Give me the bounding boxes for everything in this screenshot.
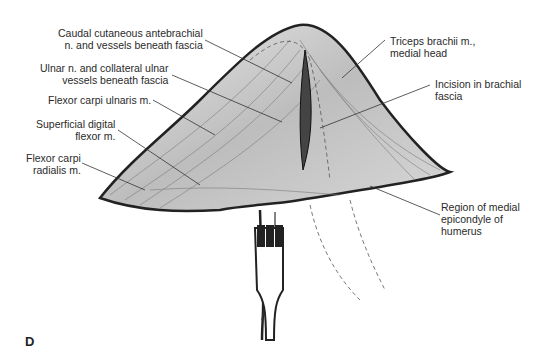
label-incision-brachial-fascia: Incision in brachial fascia: [435, 78, 521, 102]
label-triceps-brachii: Triceps brachii m., medial head: [390, 35, 475, 59]
retractor: [255, 226, 283, 340]
anatomical-illustration: Caudal cutaneous antebrachial n. and ves…: [0, 0, 544, 364]
label-ulnar-nerve: Ulnar n. and collateral ulnar vessels be…: [40, 62, 168, 86]
label-superficial-digital-flexor: Superficial digital flexor m.: [36, 118, 115, 142]
panel-letter: D: [25, 334, 34, 349]
label-medial-epicondyle: Region of medial epicondyle of humerus: [441, 201, 520, 237]
label-flexor-carpi-radialis: Flexor carpi radialis m.: [26, 152, 81, 176]
label-caudal-cutaneous-antebrachial-nerve: Caudal cutaneous antebrachial n. and ves…: [58, 27, 203, 51]
label-flexor-carpi-ulnaris: Flexor carpi ulnaris m.: [48, 94, 151, 106]
